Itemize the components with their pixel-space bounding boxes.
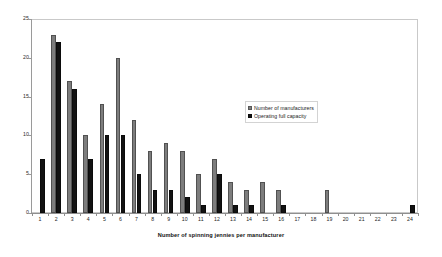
plot-area xyxy=(32,19,418,213)
legend-item-label: Operating full capacity xyxy=(254,113,306,119)
x-axis-tick-label: 17 xyxy=(289,216,305,222)
x-axis-tick-mark xyxy=(386,213,387,216)
y-axis-tick-label: 25 xyxy=(0,16,29,21)
bar xyxy=(185,197,190,213)
bar-group xyxy=(402,19,418,213)
x-axis-tick-label: 24 xyxy=(402,216,418,222)
x-axis-tick-label: 19 xyxy=(322,216,338,222)
x-axis-tick-mark xyxy=(177,213,178,216)
x-axis-tick-mark xyxy=(338,213,339,216)
legend-swatch-icon xyxy=(248,114,252,118)
bar-group xyxy=(129,19,145,213)
x-axis-tick-mark xyxy=(129,213,130,216)
x-axis-tick-label: 2 xyxy=(48,216,64,222)
x-axis-tick-mark xyxy=(305,213,306,216)
bar xyxy=(164,143,169,213)
bar-group xyxy=(338,19,354,213)
bar xyxy=(67,81,72,213)
bar xyxy=(233,205,238,213)
bar xyxy=(180,151,185,213)
bar-group xyxy=(161,19,177,213)
x-axis-tick-label: 3 xyxy=(64,216,80,222)
bar-group xyxy=(48,19,64,213)
x-axis-tick-label: 10 xyxy=(177,216,193,222)
x-axis-tick-label: 9 xyxy=(161,216,177,222)
x-axis-tick-mark xyxy=(161,213,162,216)
x-axis-tick-mark xyxy=(273,213,274,216)
legend-item-operating-full-capacity: Operating full capacity xyxy=(248,112,314,120)
x-axis-tick-label: 21 xyxy=(354,216,370,222)
x-axis-tick-label: 16 xyxy=(273,216,289,222)
bar-group xyxy=(80,19,96,213)
bar-group xyxy=(112,19,128,213)
bar-group xyxy=(354,19,370,213)
x-axis-tick-mark xyxy=(48,213,49,216)
x-axis-tick-label: 12 xyxy=(209,216,225,222)
x-axis-tick-mark xyxy=(96,213,97,216)
bar-group xyxy=(177,19,193,213)
bar xyxy=(249,205,254,213)
x-axis-tick-mark xyxy=(80,213,81,216)
x-axis-tick-label: 15 xyxy=(257,216,273,222)
x-axis-tick-label: 1 xyxy=(32,216,48,222)
bar-group xyxy=(32,19,48,213)
bar xyxy=(196,174,201,213)
bar-group xyxy=(370,19,386,213)
bar xyxy=(325,190,330,213)
bar xyxy=(116,58,121,213)
y-axis-tick-mark xyxy=(28,19,31,20)
y-axis-tick-label: 15 xyxy=(0,94,29,99)
x-axis-tick-label: 14 xyxy=(241,216,257,222)
x-axis-tick-label: 13 xyxy=(225,216,241,222)
bar xyxy=(276,190,281,213)
x-axis-tick-label: 7 xyxy=(129,216,145,222)
x-axis-tick-mark xyxy=(193,213,194,216)
bar xyxy=(121,135,126,213)
bar-group xyxy=(225,19,241,213)
bar xyxy=(56,42,61,213)
bar xyxy=(169,190,174,213)
bar xyxy=(153,190,158,213)
x-axis-tick-mark xyxy=(145,213,146,216)
bar xyxy=(217,174,222,213)
bar xyxy=(100,104,105,213)
bar-group xyxy=(145,19,161,213)
x-axis-tick-label: 4 xyxy=(80,216,96,222)
bar xyxy=(410,205,415,213)
y-axis-tick-label: 5 xyxy=(0,172,29,177)
bar-group xyxy=(386,19,402,213)
bar-group xyxy=(209,19,225,213)
x-axis-tick-mark xyxy=(354,213,355,216)
y-axis-tick-label: 10 xyxy=(0,133,29,138)
y-axis-tick-label: 20 xyxy=(0,55,29,60)
bar xyxy=(72,89,77,213)
x-axis-tick-mark xyxy=(64,213,65,216)
y-axis-tick-mark xyxy=(28,174,31,175)
x-axis-tick-label: 18 xyxy=(305,216,321,222)
bar-chart: 0510152025 12345678910111213141516171819… xyxy=(0,0,442,257)
x-axis-tick-mark xyxy=(209,213,210,216)
x-axis-tick-label: 20 xyxy=(338,216,354,222)
x-axis-tick-mark xyxy=(257,213,258,216)
legend-item-number-of-manufacturers: Number of manufacturers xyxy=(248,104,314,112)
x-axis-tick-label: 11 xyxy=(193,216,209,222)
x-axis-tick-label: 22 xyxy=(370,216,386,222)
y-axis-tick-mark xyxy=(28,58,31,59)
x-axis-title: Number of spinning jennies per manufactu… xyxy=(0,232,442,238)
x-axis-tick-label: 6 xyxy=(112,216,128,222)
bar-group xyxy=(193,19,209,213)
bar xyxy=(212,159,217,213)
x-axis-tick-label: 23 xyxy=(386,216,402,222)
bar xyxy=(260,182,265,213)
legend-swatch-icon xyxy=(248,106,252,110)
y-axis-tick-mark xyxy=(28,135,31,136)
x-axis-tick-mark xyxy=(322,213,323,216)
y-axis-tick-mark xyxy=(28,97,31,98)
x-axis-tick-mark xyxy=(241,213,242,216)
bar xyxy=(137,174,142,213)
bar xyxy=(40,159,45,213)
x-axis-tick-label: 5 xyxy=(96,216,112,222)
x-axis-tick-mark xyxy=(225,213,226,216)
y-axis-tick-mark xyxy=(28,213,31,214)
bar xyxy=(83,135,88,213)
